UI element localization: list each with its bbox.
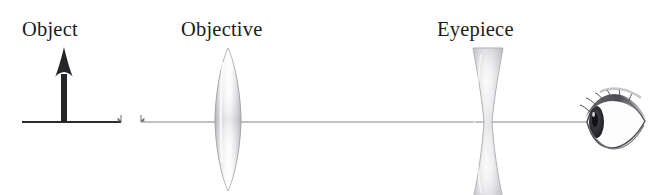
axis-break-marker-left — [140, 115, 145, 122]
objective-lens-vertical-shading — [215, 48, 241, 191]
label-eyepiece: Eyepiece — [437, 18, 514, 41]
optics-diagram-canvas: Object Objective Eyepiece — [0, 0, 659, 195]
axis-break-marker-right — [118, 115, 123, 122]
diagram-labels: Object Objective Eyepiece — [22, 18, 514, 41]
object-arrow — [55, 47, 72, 122]
label-object: Object — [22, 18, 78, 41]
observer-eye — [580, 89, 646, 149]
eye-catchlight — [592, 112, 595, 117]
object-arrow-shaft — [61, 74, 67, 122]
label-objective: Objective — [181, 18, 263, 41]
object-arrow-head — [55, 47, 72, 77]
telescope-diagram-svg: Object Objective Eyepiece — [0, 0, 659, 195]
optical-axis — [22, 115, 588, 122]
objective-lens — [215, 48, 241, 191]
